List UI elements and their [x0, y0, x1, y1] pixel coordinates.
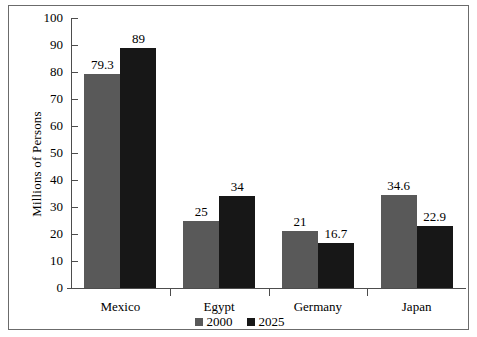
- bar-value-label: 89: [110, 32, 166, 45]
- y-axis-tick: [71, 72, 78, 73]
- legend-item-2025: 2025: [247, 315, 285, 329]
- y-axis-tick-label: 30: [27, 200, 63, 213]
- bar-egypt-2025: [219, 196, 255, 288]
- legend-swatch-icon: [247, 318, 255, 326]
- y-axis-tick: [71, 45, 78, 46]
- x-axis-separator: [170, 289, 171, 296]
- bar-value-label: 22.9: [407, 210, 463, 223]
- bar-japan-2025: [417, 226, 453, 288]
- y-axis-tick-label: 0: [27, 281, 63, 294]
- x-axis-category-label: Mexico: [71, 300, 170, 314]
- y-axis-tick-label: 70: [27, 92, 63, 105]
- y-axis-tick-label: 100: [27, 11, 63, 24]
- y-axis-tick-label: 50: [27, 146, 63, 159]
- legend-label: 2025: [259, 315, 285, 329]
- bar-mexico-2025: [120, 48, 156, 288]
- bar-value-label: 34.6: [371, 179, 427, 192]
- bar-japan-2000: [381, 195, 417, 288]
- y-axis-tick: [71, 207, 78, 208]
- y-axis-tick-label: 10: [27, 254, 63, 267]
- y-axis-tick: [71, 180, 78, 181]
- chart-legend: 20002025: [9, 315, 470, 329]
- y-axis-tick-label: 20: [27, 227, 63, 240]
- x-axis-category-label: Egypt: [170, 300, 269, 314]
- y-axis-title: Millions of Persons: [29, 84, 45, 244]
- x-axis-category-label: Germany: [269, 300, 368, 314]
- y-axis-tick-label: 40: [27, 173, 63, 186]
- legend-item-2000: 2000: [195, 315, 233, 329]
- legend-label: 2000: [207, 315, 233, 329]
- y-axis-tick-label: 60: [27, 119, 63, 132]
- bar-mexico-2000: [84, 74, 120, 288]
- bar-value-label: 34: [209, 180, 265, 193]
- figure-border: Millions of Persons 10090807060504030201…: [8, 5, 469, 330]
- x-axis-separator: [367, 289, 368, 296]
- bar-value-label: 16.7: [308, 227, 364, 240]
- y-axis-tick: [71, 18, 78, 19]
- x-axis-category-label: Japan: [367, 300, 466, 314]
- bar-egypt-2000: [183, 221, 219, 289]
- y-axis-tick-label: 80: [27, 65, 63, 78]
- y-axis-tick: [67, 288, 78, 289]
- legend-swatch-icon: [195, 318, 203, 326]
- y-axis-tick-label: 90: [27, 38, 63, 51]
- y-axis-tick: [71, 153, 78, 154]
- y-axis-tick: [71, 126, 78, 127]
- x-axis-separator: [269, 289, 270, 296]
- y-axis-tick: [71, 234, 78, 235]
- bar-chart-figure: Millions of Persons 10090807060504030201…: [0, 0, 477, 337]
- y-axis-tick: [71, 261, 78, 262]
- plot-area: 1009080706050403020100 79.38925342116.73…: [71, 18, 466, 289]
- y-axis-tick: [71, 99, 78, 100]
- bar-germany-2025: [318, 243, 354, 288]
